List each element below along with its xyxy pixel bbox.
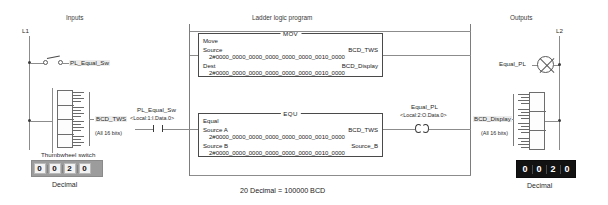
- junction-node-lamp: [558, 63, 561, 66]
- rung2-wire-left: [190, 129, 198, 130]
- equ-source-b-tag: Source_B: [351, 142, 378, 149]
- diagram-caption: 20 Decimal = 100000 BCD: [240, 186, 325, 195]
- thumbwheel-readout-caption: Decimal: [52, 181, 77, 188]
- digit-separator-dark: [532, 165, 533, 174]
- bcd-display-readout-caption: Decimal: [527, 182, 552, 189]
- rung1-top-wire: [190, 31, 471, 32]
- equ-source-a-label: Source A: [203, 126, 228, 133]
- bcd-display-bit-leads: [517, 92, 529, 150]
- section-header-inputs: Inputs: [66, 14, 83, 21]
- thumbwheel-bits-note: (All 16 bits): [95, 131, 122, 136]
- program-left-rail: [189, 24, 190, 176]
- bcd-display-tag: BCD_Display: [473, 116, 512, 122]
- thumbwheel-bus: [52, 88, 53, 153]
- mov-name: Move: [203, 37, 218, 44]
- rung2-wire-to-contact: [135, 129, 153, 130]
- mov-dest-tag: BCD_Display: [342, 62, 378, 69]
- equ-source-a-tag: BCD_TWS: [348, 126, 378, 133]
- wire-thumbwheel: [30, 121, 52, 122]
- coil-arc-right[interactable]: [422, 124, 429, 133]
- digit-separator: [77, 165, 78, 173]
- mov-source-label: Source: [203, 46, 222, 53]
- lamp-label: Equal_PL: [499, 61, 526, 67]
- bcd-display-module-body: [529, 92, 545, 150]
- bcd-display-bits-note: (All 16 bits): [481, 131, 508, 136]
- digit-separator-dark: [560, 165, 561, 174]
- thumbwheel-caption: Thumbwheel switch: [41, 152, 95, 158]
- equ-name: Equal: [203, 117, 219, 124]
- mov-dest-label: Dest: [203, 62, 216, 69]
- rung2-wire-after-contact: [163, 129, 190, 130]
- rail-label-l2: L2: [556, 28, 563, 34]
- switch-terminal-left: [43, 60, 48, 65]
- equ-mnemonic: EQU: [280, 110, 300, 117]
- thumbwheel-tag: BCD_TWS: [95, 116, 127, 122]
- wire-display-right: [545, 121, 559, 122]
- rung2-wire-to-coil: [383, 129, 415, 130]
- bcd-display-digit-0: 0: [520, 163, 531, 175]
- bcd-display-digit-1: 0: [534, 163, 545, 175]
- equ-source-a-value: 2#0000_0000_0000_0000_0000_0000_0010_000…: [209, 134, 345, 140]
- section-header-outputs: Outputs: [510, 14, 532, 21]
- pilot-lamp-icon[interactable]: [537, 56, 554, 73]
- digit-separator: [47, 165, 48, 173]
- instruction-block-mov[interactable]: MOV Move Source BCD_TWS 2#0000_0000_0000…: [198, 33, 383, 77]
- contact-address: <Local:1:I.Data.0>: [130, 116, 174, 121]
- section-header-program: Ladder logic program: [252, 14, 312, 21]
- rung2-wire-after-coil: [429, 129, 471, 130]
- thumbwheel-digit-3: 0: [79, 163, 91, 174]
- contact-tag: PL_Equal_Sw: [137, 107, 176, 113]
- thumbwheel-digit-1: 0: [49, 163, 61, 174]
- digit-separator-dark: [546, 165, 547, 174]
- rail-label-l1: L1: [22, 28, 29, 34]
- rung1-wire-right: [383, 55, 471, 56]
- bcd-display-brace: [513, 94, 514, 146]
- thumbwheel-switch-body: [57, 90, 73, 148]
- bcd-display-digit-2: 2: [548, 163, 559, 175]
- thumbwheel-bit-leads: [73, 90, 87, 148]
- equ-source-b-value: 2#0000_0000_0000_0000_0000_0000_0010_000…: [209, 150, 345, 156]
- wire-switch-right: [62, 63, 69, 64]
- plc-ladder-diagram: Inputs Ladder logic program Outputs L1 P…: [0, 0, 608, 205]
- contact-bar-left[interactable]: [153, 125, 154, 132]
- rail-l2: [559, 36, 560, 150]
- instruction-block-equ[interactable]: EQU Equal Source A BCD_TWS 2#0000_0000_0…: [198, 113, 383, 157]
- coil-tag: Equal_PL: [411, 104, 438, 110]
- bcd-display-readout: 0 0 2 0: [516, 160, 576, 178]
- thumbwheel-digit-0: 0: [34, 163, 46, 174]
- mov-source-tag: BCD_TWS: [348, 46, 378, 53]
- equ-source-b-label: Source B: [203, 142, 228, 149]
- thumbwheel-brace-stem: [89, 119, 94, 120]
- rung1-wire-left: [190, 55, 198, 56]
- switch-label: PL_Equal_Sw: [69, 60, 110, 66]
- rail-l1: [29, 36, 30, 150]
- thumbwheel-readout[interactable]: 0 0 2 0: [31, 160, 103, 177]
- switch-blade: [47, 55, 60, 58]
- bcd-display-digit-3: 0: [562, 163, 573, 175]
- thumbwheel-digit-2: 2: [64, 163, 76, 174]
- mov-source-value: 2#0000_0000_0000_0000_0000_0000_0010_000…: [209, 54, 345, 60]
- coil-arc-left[interactable]: [415, 124, 422, 133]
- wire-switch-left: [30, 63, 44, 64]
- program-right-rail: [470, 24, 471, 176]
- digit-separator: [62, 165, 63, 173]
- coil-address: <Local:2:O.Data.0>: [400, 113, 447, 118]
- mov-dest-value: 2#0000_0000_0000_0000_0000_0000_0010_000…: [209, 70, 345, 76]
- program-bottom-wire: [190, 175, 471, 176]
